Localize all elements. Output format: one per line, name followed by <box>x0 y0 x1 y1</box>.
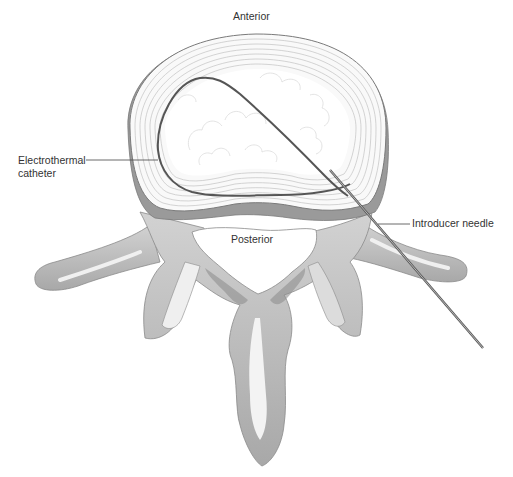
electrothermal-catheter-label: Electrothermal catheter <box>18 154 86 179</box>
anterior-label: Anterior <box>233 10 270 23</box>
introducer-needle-label: Introducer needle <box>412 217 494 230</box>
catheter-label-line-2: catheter <box>18 167 86 180</box>
posterior-label: Posterior <box>231 233 273 246</box>
catheter-label-line-1: Electrothermal <box>18 154 86 167</box>
vertebral-arch <box>35 212 467 466</box>
